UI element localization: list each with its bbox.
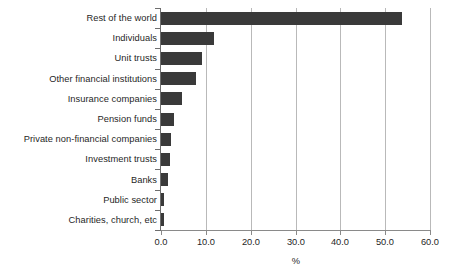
x-axis-tick-label: 40.0 xyxy=(320,237,360,248)
bar xyxy=(161,72,196,85)
bar xyxy=(161,52,202,65)
x-axis-tick xyxy=(161,231,162,235)
x-axis-tick-label: 20.0 xyxy=(231,237,271,248)
x-axis-tick xyxy=(340,231,341,235)
y-axis-category-labels: Rest of the worldIndividualsUnit trustsO… xyxy=(0,8,157,230)
category-label: Rest of the world xyxy=(0,13,157,23)
category-label: Individuals xyxy=(0,33,157,43)
x-axis-tick xyxy=(206,231,207,235)
category-label: Private non-financial companies xyxy=(0,134,157,144)
plot-area xyxy=(161,8,430,230)
category-label: Unit trusts xyxy=(0,53,157,63)
x-axis-tick xyxy=(296,231,297,235)
category-label: Pension funds xyxy=(0,114,157,124)
category-label: Investment trusts xyxy=(0,154,157,164)
x-axis-tick xyxy=(385,231,386,235)
category-label: Insurance companies xyxy=(0,94,157,104)
x-axis-title: % xyxy=(161,256,431,267)
category-label: Other financial institutions xyxy=(0,74,157,84)
x-axis-tick xyxy=(430,231,431,235)
bar xyxy=(161,193,164,206)
bar xyxy=(161,153,170,166)
bar xyxy=(161,133,171,146)
bar xyxy=(161,113,174,126)
bar xyxy=(161,32,214,45)
x-axis-tick xyxy=(251,231,252,235)
x-axis-tick-label: 50.0 xyxy=(365,237,405,248)
bar xyxy=(161,213,164,226)
category-label: Public sector xyxy=(0,195,157,205)
x-axis-tick-label: 10.0 xyxy=(186,237,226,248)
gridline-60.0 xyxy=(430,8,431,230)
bar xyxy=(161,92,182,105)
bar xyxy=(161,173,168,186)
bar-chart: Rest of the worldIndividualsUnit trustsO… xyxy=(0,0,453,279)
x-axis-tick-label: 60.0 xyxy=(410,237,450,248)
bar-series xyxy=(161,8,430,230)
x-axis-tick-label: 30.0 xyxy=(276,237,316,248)
category-label: Charities, church, etc xyxy=(0,215,157,225)
x-axis-tick-label: 0.0 xyxy=(141,237,181,248)
bar xyxy=(161,12,402,25)
category-label: Banks xyxy=(0,175,157,185)
